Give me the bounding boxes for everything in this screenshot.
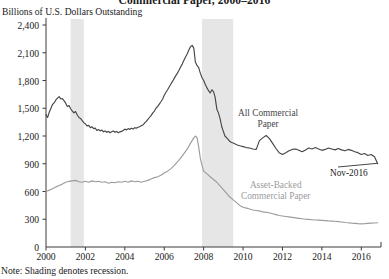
x-tick-label: 2000: [36, 251, 55, 262]
chart-container: Commercial Paper, 2000–2016 Billions of …: [0, 0, 389, 279]
x-tick-label: 2004: [115, 251, 134, 262]
x-tick-label: 2006: [155, 251, 174, 262]
y-tick-label: 300: [0, 214, 39, 225]
x-tick-label: 2010: [233, 251, 252, 262]
y-tick-label: 1,500: [0, 103, 39, 114]
annotation-leader-line: [338, 163, 378, 167]
recession-shading: [71, 19, 84, 247]
recession-shading: [202, 19, 233, 247]
chart-footnote: Note: Shading denotes recession.: [1, 265, 128, 276]
y-tick-label: 2,400: [0, 20, 39, 31]
series-label-asset-backed-commercial-paper: Asset-BackedCommercial Paper: [241, 180, 310, 202]
y-tick-label: 600: [0, 186, 39, 197]
x-tick-label: 2016: [352, 251, 371, 262]
y-tick-label: 900: [0, 158, 39, 169]
annotation-nov-2016: Nov-2016: [330, 168, 368, 178]
series-label-line: Asset-Backed: [241, 180, 310, 191]
x-tick-label: 2014: [312, 251, 331, 262]
plot-area: [0, 0, 389, 279]
y-tick-label: 1,200: [0, 131, 39, 142]
series-label-line: All Commercial: [238, 108, 298, 119]
x-tick-label: 2012: [273, 251, 292, 262]
y-origin-label: 0: [0, 242, 39, 253]
x-tick-label: 2002: [76, 251, 95, 262]
y-tick-label: 2,100: [0, 47, 39, 58]
series-label-line: Commercial Paper: [241, 191, 310, 202]
y-tick-label: 1,800: [0, 75, 39, 86]
series-label-all-commercial-paper: All CommercialPaper: [238, 108, 298, 130]
x-tick-label: 2008: [194, 251, 213, 262]
series-label-line: Paper: [238, 119, 298, 130]
